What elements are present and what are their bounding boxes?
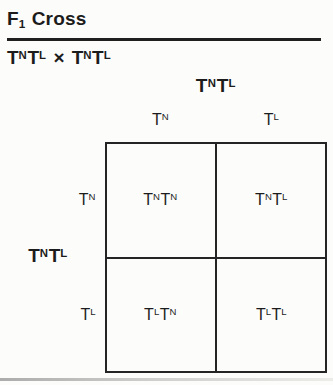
cross-symbol: × (54, 47, 65, 68)
parent-genotype-right: TNTL (72, 47, 112, 68)
title-f: F (7, 8, 19, 29)
figure-title: F1Cross (7, 7, 87, 33)
parent-genotype-left: TNTL (7, 47, 47, 68)
column-header-tl: TL (216, 109, 327, 133)
parental-cross: TNTL×TNTL (7, 46, 111, 72)
page-edge-shadow (0, 378, 333, 381)
title-underline (7, 38, 321, 41)
title-rest: Cross (32, 8, 87, 29)
title-subscript: 1 (19, 17, 26, 30)
column-header-tn: TN (105, 109, 216, 133)
row-header-tl: TL (40, 305, 96, 327)
grid-horizontal-divider (107, 257, 325, 259)
left-parent-genotype: TNTL (8, 245, 88, 269)
cell-genotype-1-0: TLTN (105, 305, 216, 327)
cell-genotype-1-1: TLTL (216, 305, 327, 327)
cell-genotype-0-1: TNTL (216, 190, 327, 212)
top-parent-genotype: TNTL (105, 73, 327, 101)
cell-genotype-0-0: TNTN (105, 190, 216, 212)
punnett-grid (105, 142, 327, 373)
punnett-square-figure: F1Cross TNTL×TNTL TNTL TN TL TNTL TN TL … (0, 0, 333, 385)
row-header-tn: TN (40, 190, 96, 212)
